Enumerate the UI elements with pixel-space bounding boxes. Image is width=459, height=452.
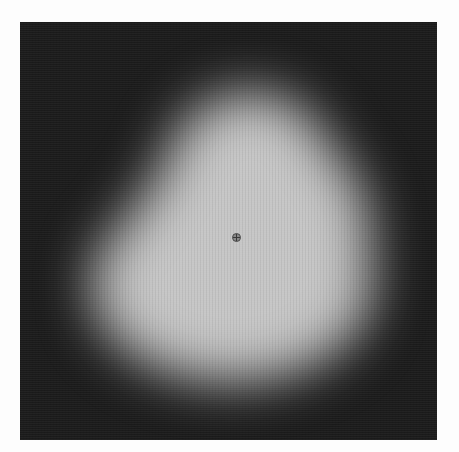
blob-left-bulge bbox=[120, 172, 250, 362]
crosshair-marker-icon bbox=[232, 233, 241, 242]
image-frame bbox=[0, 0, 459, 452]
bright-blob bbox=[20, 22, 437, 440]
image-panel bbox=[20, 22, 437, 440]
blob-right-bulge bbox=[230, 142, 370, 342]
